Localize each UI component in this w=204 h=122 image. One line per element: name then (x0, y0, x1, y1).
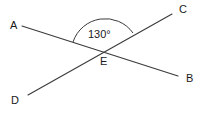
geometry-figure: A B C D E 130° (0, 0, 204, 122)
point-label-d: D (11, 95, 19, 106)
angle-measure-label: 130° (88, 29, 111, 40)
point-label-c: C (179, 4, 187, 15)
point-label-e: E (100, 56, 107, 67)
point-label-a: A (10, 20, 17, 31)
point-label-b: B (186, 73, 193, 84)
